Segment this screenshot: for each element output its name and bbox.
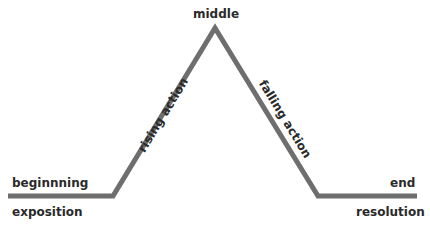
label-exposition: exposition	[12, 206, 83, 218]
label-beginning: beginnning	[12, 177, 88, 189]
label-end: end	[390, 177, 415, 189]
plot-arc-line	[0, 0, 430, 231]
label-middle: middle	[193, 8, 239, 20]
plot-diagram: beginnning exposition middle end resolut…	[0, 0, 430, 231]
label-resolution: resolution	[356, 206, 425, 218]
